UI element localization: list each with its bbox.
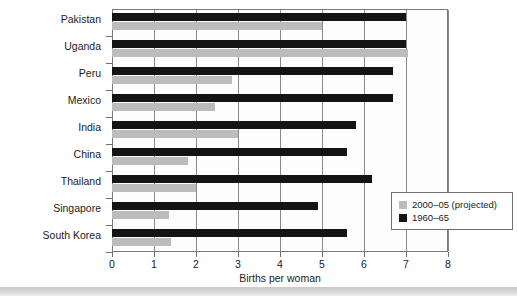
bar-group (112, 146, 448, 173)
x-axis-tick (280, 252, 281, 257)
x-axis-tick-label: 5 (310, 258, 334, 270)
y-axis-tick (106, 90, 112, 91)
bar-1960-65 (112, 229, 347, 237)
bar-2000-05-projected (112, 103, 215, 111)
bar-group (112, 38, 448, 65)
y-axis-tick (106, 36, 112, 37)
x-axis-tick (448, 252, 449, 257)
x-axis-tick-label: 8 (436, 258, 460, 270)
legend-label: 2000–05 (projected) (412, 199, 497, 210)
y-axis-label: Singapore (0, 203, 101, 214)
legend-swatch-icon (399, 201, 407, 209)
bar-2000-05-projected (112, 130, 238, 138)
bar-group (112, 227, 448, 254)
x-axis-tick-label: 0 (100, 258, 124, 270)
bar-1960-65 (112, 67, 393, 75)
x-axis-tick-label: 2 (184, 258, 208, 270)
bar-1960-65 (112, 175, 372, 183)
x-axis-tick-labels: 012345678 (112, 258, 448, 272)
x-axis-title: Births per woman (112, 272, 448, 284)
bar-1960-65 (112, 202, 318, 210)
page-scan-band (0, 287, 517, 296)
bar-2000-05-projected (112, 76, 232, 84)
x-axis-tick (322, 252, 323, 257)
y-axis-tick (106, 144, 112, 145)
y-axis-label: Uganda (0, 41, 101, 52)
bar-group (112, 65, 448, 92)
y-axis-label: South Korea (0, 230, 101, 241)
bar-1960-65 (112, 148, 347, 156)
bar-group (112, 11, 448, 38)
y-axis-tick (106, 171, 112, 172)
x-axis-tick (154, 252, 155, 257)
y-axis-label: Mexico (0, 95, 101, 106)
x-axis-tick-label: 7 (394, 258, 418, 270)
y-axis-labels: PakistanUgandaPeruMexicoIndiaChinaThaila… (0, 9, 108, 252)
x-axis-tick (406, 252, 407, 257)
y-axis-label: Pakistan (0, 14, 101, 25)
bar-1960-65 (112, 40, 406, 48)
legend-swatch-icon (399, 214, 407, 222)
legend-entry: 1960–65 (399, 211, 506, 224)
x-axis-tick (364, 252, 365, 257)
legend-entry: 2000–05 (projected) (399, 198, 506, 211)
x-axis-tick (112, 252, 113, 257)
x-axis-tick-label: 4 (268, 258, 292, 270)
x-axis-tick-label: 1 (142, 258, 166, 270)
legend: 2000–05 (projected)1960–65 (391, 192, 513, 230)
x-axis-tick (238, 252, 239, 257)
y-axis-tick (106, 63, 112, 64)
y-axis-label: Peru (0, 68, 101, 79)
bar-1960-65 (112, 94, 393, 102)
y-axis-label: Thailand (0, 176, 101, 187)
y-axis-tick (106, 225, 112, 226)
bar-2000-05-projected (112, 157, 188, 165)
bar-group (112, 119, 448, 146)
y-axis-tick (106, 117, 112, 118)
bar-2000-05-projected (112, 22, 322, 30)
x-axis-tick-label: 3 (226, 258, 250, 270)
bar-1960-65 (112, 121, 356, 129)
y-axis-label: India (0, 122, 101, 133)
legend-label: 1960–65 (412, 212, 449, 223)
bar-2000-05-projected (112, 238, 171, 246)
bar-2000-05-projected (112, 49, 408, 57)
x-axis-tick (196, 252, 197, 257)
y-axis-label: China (0, 149, 101, 160)
bar-1960-65 (112, 13, 406, 21)
bar-group (112, 92, 448, 119)
x-axis-tick-label: 6 (352, 258, 376, 270)
births-per-woman-bar-chart: PakistanUgandaPeruMexicoIndiaChinaThaila… (0, 0, 517, 296)
bar-2000-05-projected (112, 184, 196, 192)
bar-2000-05-projected (112, 211, 169, 219)
y-axis-tick (106, 198, 112, 199)
